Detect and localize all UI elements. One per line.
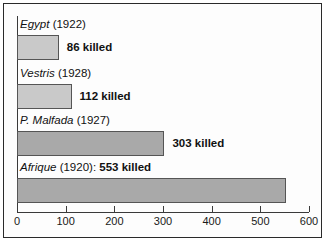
x-tick-label: 0 xyxy=(0,215,37,227)
bar-label-year: (1922) xyxy=(53,18,86,30)
bar-group: Egypt (1922)86 killed xyxy=(17,18,317,60)
x-tick-label: 200 xyxy=(94,215,134,227)
x-tick-mark xyxy=(260,206,261,212)
bar-value-label: 303 killed xyxy=(172,137,224,149)
chart-figure: 0100200300400500600 Egypt (1922)86 kille… xyxy=(0,0,328,245)
x-tick-mark xyxy=(66,206,67,212)
x-tick-mark xyxy=(163,206,164,212)
bar xyxy=(17,178,286,203)
x-tick-mark xyxy=(212,206,213,212)
bar-label: Afrique (1920): 553 killed xyxy=(20,161,151,173)
x-tick-label: 400 xyxy=(192,215,232,227)
bar-group: P. Malfada (1927)303 killed xyxy=(17,114,317,156)
bar-label-ship: P. Malfada xyxy=(20,114,74,126)
bar xyxy=(17,84,72,109)
x-tick-label: 100 xyxy=(46,215,86,227)
bar-label: Egypt (1922) xyxy=(20,18,86,30)
bar xyxy=(17,131,164,156)
bar-group: Vestris (1928)112 killed xyxy=(17,67,317,109)
x-tick-label: 600 xyxy=(289,215,328,227)
bar-value-label: 112 killed xyxy=(80,90,131,102)
bar-label: P. Malfada (1927) xyxy=(20,114,110,126)
bar-label-ship: Afrique xyxy=(20,161,56,173)
x-tick-label: 300 xyxy=(143,215,183,227)
x-tick-label: 500 xyxy=(240,215,280,227)
bar-label-ship: Egypt xyxy=(20,18,49,30)
bar-value-label: 553 killed xyxy=(99,161,151,173)
bar-label: Vestris (1928) xyxy=(20,67,91,79)
x-tick-mark xyxy=(114,206,115,212)
bar-group: Afrique (1920): 553 killed xyxy=(17,161,317,203)
plot-area: 0100200300400500600 Egypt (1922)86 kille… xyxy=(0,0,328,245)
x-tick-mark xyxy=(309,206,310,212)
bar-value-label: 86 killed xyxy=(67,41,112,53)
bar xyxy=(17,35,59,60)
x-tick-mark xyxy=(17,206,18,212)
bar-label-ship: Vestris xyxy=(20,67,55,79)
x-axis-line xyxy=(17,212,309,213)
bar-label-year: (1920): xyxy=(60,161,96,173)
bar-label-year: (1927) xyxy=(77,114,110,126)
bar-label-year: (1928) xyxy=(58,67,91,79)
